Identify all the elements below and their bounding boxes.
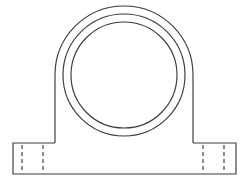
housing-body-fill [55, 6, 193, 143]
technical-drawing-canvas: Pillow Block Bearing Housing - Front Ele… [0, 0, 249, 188]
pillow-block-bearing-drawing [0, 0, 249, 188]
